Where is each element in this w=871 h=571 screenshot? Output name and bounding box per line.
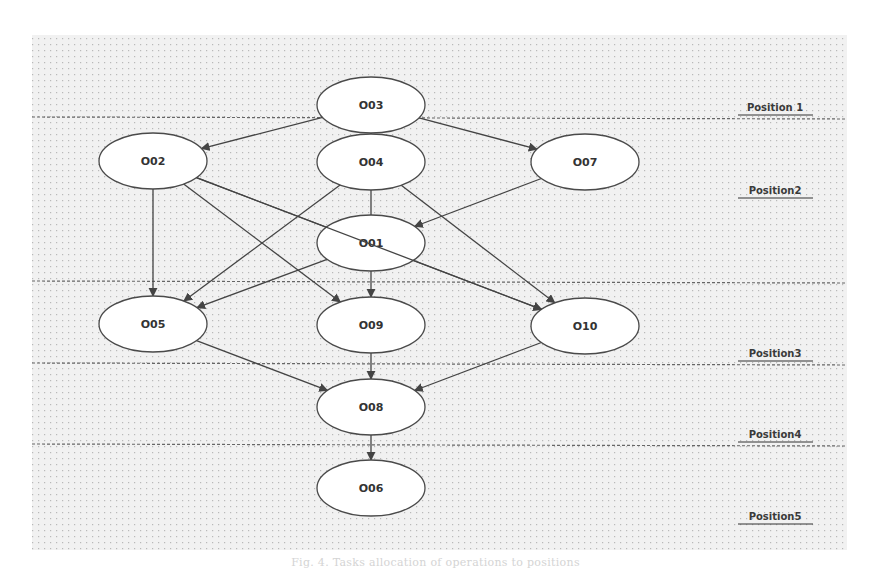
node-o09[interactable]: O09 (317, 297, 425, 353)
node-label: O02 (141, 155, 166, 168)
node-o04[interactable]: O04 (317, 134, 425, 190)
node-o07[interactable]: O07 (531, 134, 639, 190)
node-o06[interactable]: O06 (317, 460, 425, 516)
node-o05[interactable]: O05 (99, 296, 207, 352)
node-label: O05 (141, 318, 166, 331)
position-label: Position3 (749, 348, 802, 359)
node-label: O06 (359, 482, 384, 495)
node-o02[interactable]: O02 (99, 133, 207, 189)
position-label: Position5 (749, 511, 802, 522)
node-label: O08 (359, 401, 384, 414)
node-o10[interactable]: O10 (531, 298, 639, 354)
node-o01[interactable]: O01 (317, 215, 425, 271)
node-o08[interactable]: O08 (317, 379, 425, 435)
node-label: O09 (359, 319, 384, 332)
node-o03[interactable]: O03 (317, 77, 425, 133)
node-label: O07 (573, 156, 598, 169)
position-label: Position4 (749, 429, 802, 440)
node-label: O04 (359, 156, 384, 169)
node-label: O10 (573, 320, 598, 333)
position-label: Position2 (749, 185, 802, 196)
figure-caption: Fig. 4. Tasks allocation of operations t… (0, 556, 871, 569)
position-label: Position 1 (747, 102, 803, 113)
precedence-diagram: O03O02O04O07O01O05O09O10O08O06 Position … (0, 0, 871, 571)
grid-background (32, 35, 847, 550)
node-label: O03 (359, 99, 384, 112)
